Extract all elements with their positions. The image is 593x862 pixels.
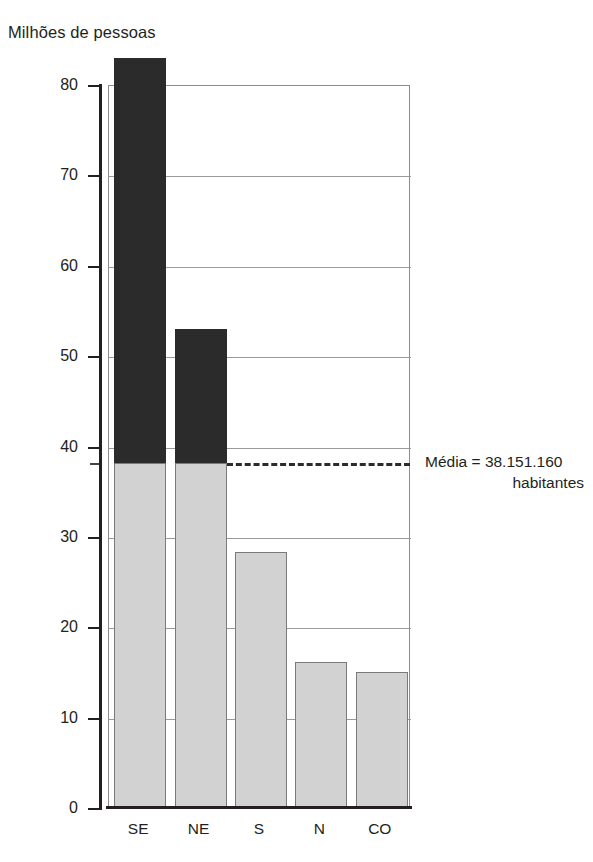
bar-s[interactable]	[235, 552, 287, 808]
mean-annotation-line2: habitantes	[425, 473, 590, 494]
y-tick-80	[88, 85, 99, 87]
population-bar-chart: Milhões de pessoas 80706050403020100 SEN…	[0, 0, 593, 862]
y-tick-label-10: 10	[16, 709, 78, 727]
bar-segment-below-mean	[235, 552, 287, 808]
y-tick-60	[88, 266, 99, 268]
mean-annotation: Média = 38.151.160 habitantes	[425, 452, 590, 494]
y-tick-label-40: 40	[16, 438, 78, 456]
bar-se[interactable]	[114, 58, 166, 808]
y-tick-label-30: 30	[16, 528, 78, 546]
y-tick-mean	[90, 463, 99, 465]
y-tick-10	[88, 718, 99, 720]
bar-segment-above-mean	[175, 329, 227, 463]
y-tick-20	[88, 627, 99, 629]
bar-segment-above-mean	[114, 58, 166, 463]
y-tick-label-0: 0	[16, 799, 78, 817]
bar-segment-below-mean	[295, 662, 347, 808]
mean-reference-line	[227, 463, 410, 466]
bar-ne[interactable]	[175, 329, 227, 808]
x-label-co: CO	[350, 820, 410, 838]
x-label-ne: NE	[168, 820, 228, 838]
x-label-se: SE	[108, 820, 168, 838]
y-tick-0	[88, 808, 99, 810]
y-tick-label-20: 20	[16, 618, 78, 636]
y-axis-title: Milhões de pessoas	[8, 23, 156, 42]
y-tick-40	[88, 447, 99, 449]
x-axis-line	[106, 806, 412, 809]
y-tick-label-80: 80	[16, 76, 78, 94]
y-tick-30	[88, 537, 99, 539]
y-tick-label-60: 60	[16, 257, 78, 275]
bar-co[interactable]	[356, 672, 408, 808]
mean-annotation-line1: Média = 38.151.160	[425, 452, 590, 473]
bar-n[interactable]	[295, 662, 347, 808]
y-tick-50	[88, 356, 99, 358]
x-label-n: N	[289, 820, 349, 838]
y-tick-label-70: 70	[16, 166, 78, 184]
y-axis-line	[99, 84, 102, 810]
y-tick-70	[88, 175, 99, 177]
y-tick-label-50: 50	[16, 347, 78, 365]
bar-segment-below-mean	[356, 672, 408, 808]
bar-segment-below-mean	[175, 463, 227, 808]
x-label-s: S	[229, 820, 289, 838]
bar-segment-below-mean	[114, 463, 166, 808]
